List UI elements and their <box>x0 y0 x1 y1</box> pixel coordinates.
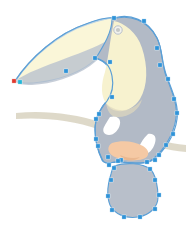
path-anchor-point[interactable] <box>153 158 157 162</box>
path-anchor-point[interactable] <box>138 215 142 219</box>
path-anchor-point[interactable] <box>112 16 116 20</box>
path-anchor-point[interactable] <box>164 143 168 147</box>
path-anchor-point[interactable] <box>93 56 97 60</box>
path-anchor-point[interactable] <box>116 159 120 163</box>
path-anchor-point[interactable] <box>155 46 159 50</box>
path-anchor-point[interactable] <box>109 178 113 182</box>
path-anchor-point[interactable] <box>171 132 175 136</box>
path-anchor-point[interactable] <box>96 144 100 148</box>
path-anchor-point[interactable] <box>94 137 98 141</box>
path-anchor-point[interactable] <box>64 69 68 73</box>
path-anchor-point[interactable] <box>157 193 161 197</box>
path-anchor-point[interactable] <box>106 155 110 159</box>
path-anchor-point[interactable] <box>110 95 114 99</box>
tail[interactable] <box>108 164 158 218</box>
path-anchor-point[interactable] <box>122 215 126 219</box>
path-anchor-point[interactable] <box>107 163 111 167</box>
vector-canvas[interactable]: Toucan vector illustration — path select… <box>0 0 186 233</box>
path-anchor-point[interactable] <box>148 167 152 171</box>
path-anchor-point[interactable] <box>108 60 112 64</box>
eye-pupil <box>116 28 120 32</box>
path-anchor-point[interactable] <box>153 207 157 211</box>
path-anchor-point[interactable] <box>18 80 22 84</box>
path-anchor-point[interactable] <box>142 19 146 23</box>
path-anchor-point[interactable] <box>153 178 157 182</box>
path-anchor-point[interactable] <box>106 194 110 198</box>
path-anchor-point[interactable] <box>94 117 98 121</box>
path-anchor-point[interactable] <box>166 77 170 81</box>
tail-group <box>108 164 158 218</box>
path-anchor-point[interactable] <box>157 153 161 157</box>
path-anchor-point[interactable] <box>175 111 179 115</box>
path-anchor-point[interactable] <box>97 112 101 116</box>
path-anchor-point[interactable] <box>172 97 176 101</box>
eye-group <box>114 26 122 34</box>
toucan-artwork[interactable] <box>0 0 186 233</box>
path-anchor-point[interactable] <box>110 208 114 212</box>
path-anchor-point[interactable] <box>145 160 149 164</box>
path-anchor-point[interactable] <box>12 79 16 83</box>
body-group <box>95 17 176 163</box>
path-anchor-point[interactable] <box>158 63 162 67</box>
path-anchor-point[interactable] <box>112 166 116 170</box>
